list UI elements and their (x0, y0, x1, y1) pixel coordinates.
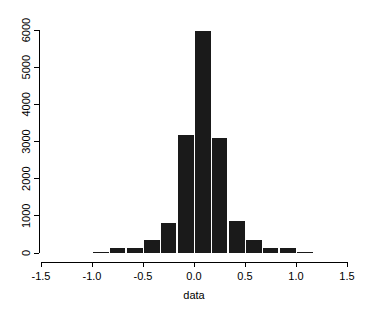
y-axis-tick-label: 3000 (20, 129, 32, 153)
x-axis-tick-label: 1.0 (288, 270, 303, 282)
x-axis-ticks (41, 262, 347, 267)
hist-bar (296, 252, 313, 253)
bars-group (92, 30, 313, 253)
x-axis-tick-label: 0.0 (186, 270, 201, 282)
x-axis-tick-label: 1.5 (339, 270, 354, 282)
x-axis-tick-labels: -1.5-1.0-0.50.00.51.01.5 (32, 270, 355, 282)
x-axis-title: data (183, 289, 205, 301)
y-axis-ticks (34, 30, 39, 253)
y-axis-tick-label: 2000 (20, 166, 32, 190)
histogram-plot: 0100020003000400050006000 -1.5-1.0-0.50.… (0, 0, 370, 315)
x-axis: -1.5-1.0-0.50.00.51.01.5 (32, 262, 355, 282)
plot-canvas: 0100020003000400050006000 -1.5-1.0-0.50.… (0, 0, 370, 315)
y-axis: 0100020003000400050006000 (20, 18, 39, 256)
y-axis-tick-labels: 0100020003000400050006000 (20, 18, 32, 256)
y-axis-tick-label: 6000 (20, 18, 32, 42)
hist-bar (194, 30, 211, 253)
hist-bar (177, 135, 194, 253)
x-axis-tick-label: -1.5 (32, 270, 51, 282)
hist-bar (143, 240, 160, 253)
x-axis-tick-label: -0.5 (134, 270, 153, 282)
hist-bar (109, 247, 126, 253)
hist-bar (279, 247, 296, 253)
hist-bar (160, 223, 177, 253)
y-axis-tick-label: 4000 (20, 92, 32, 116)
hist-bar (228, 221, 245, 253)
hist-bar (245, 240, 262, 253)
hist-bar (262, 247, 279, 253)
x-axis-tick-label: 0.5 (237, 270, 252, 282)
hist-bar (211, 137, 228, 253)
y-axis-tick-label: 0 (20, 250, 32, 256)
y-axis-tick-label: 1000 (20, 204, 32, 228)
y-axis-tick-label: 5000 (20, 55, 32, 79)
x-axis-tick-label: -1.0 (83, 270, 102, 282)
hist-bar (92, 252, 109, 253)
hist-bar (126, 247, 143, 253)
